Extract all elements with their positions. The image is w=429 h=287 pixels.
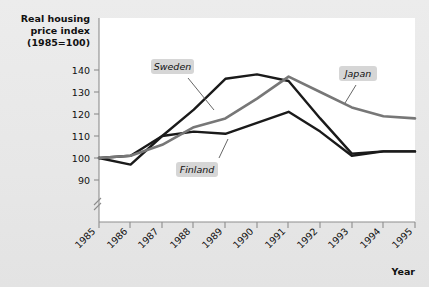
x-tick-label-1990: 1990 [231,226,256,251]
y-axis-title-line-1: Real housing [21,13,90,24]
series-label-japan: Japan [343,68,372,79]
x-tick-label-1991: 1991 [263,226,288,251]
y-tick-label-100: 100 [72,153,90,164]
series-label-sweden: Sweden [154,61,192,72]
y-axis-ticks: 140 130 120 110 100 90 [72,65,99,186]
annotation-sweden[interactable]: Sweden [151,59,194,74]
chart-figure: Real housing price index (1985=100) 140 … [0,0,429,287]
x-tick-label-1988: 1988 [168,226,193,251]
x-tick-label-1987: 1987 [136,226,161,251]
x-axis-tick-labels: 1985 1986 1987 1988 1989 1990 1991 1992 … [73,226,415,251]
x-tick-label-1986: 1986 [105,226,130,251]
annotation-japan[interactable]: Japan [339,66,377,81]
y-axis-title-line-2: price index [30,25,90,36]
y-tick-label-140: 140 [72,65,90,76]
x-tick-label-1985: 1985 [73,226,98,251]
line-chart: Real housing price index (1985=100) 140 … [0,0,429,287]
x-tick-label-1992: 1992 [295,226,320,251]
y-tick-label-130: 130 [72,87,90,98]
plot-area-background [99,18,415,222]
x-tick-label-1995: 1995 [390,226,415,251]
y-axis-title-line-3: (1985=100) [27,37,90,48]
x-tick-label-1989: 1989 [200,226,225,251]
series-label-finland: Finland [180,164,216,175]
x-tick-label-1993: 1993 [326,226,351,251]
x-tick-label-1994: 1994 [358,226,383,251]
y-tick-label-110: 110 [72,131,90,142]
y-tick-label-90: 90 [78,175,90,186]
annotation-finland[interactable]: Finland [176,162,218,177]
x-axis-ticks [99,222,415,228]
x-axis-title: Year [390,266,415,277]
y-tick-label-120: 120 [72,109,90,120]
